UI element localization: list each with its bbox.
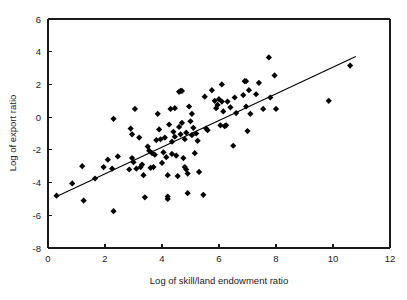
x-tick-label: 4 xyxy=(159,253,164,264)
data-point-marker xyxy=(200,192,206,198)
data-point-marker xyxy=(100,164,106,170)
y-tick-label: -6 xyxy=(33,210,41,221)
data-point-marker xyxy=(170,129,176,135)
trend-line xyxy=(57,57,356,197)
data-point-marker xyxy=(132,106,138,112)
y-tick-label: 4 xyxy=(36,46,41,57)
x-axis-title: Log of skill/land endowment ratio xyxy=(150,275,288,286)
data-point-marker xyxy=(172,134,178,140)
data-point-marker xyxy=(136,134,142,140)
data-point-marker xyxy=(253,91,259,97)
data-point-marker xyxy=(175,173,181,179)
data-point-marker xyxy=(166,121,172,127)
data-point-marker xyxy=(156,126,162,132)
x-tick-label: 6 xyxy=(216,253,221,264)
data-point-marker xyxy=(260,106,266,112)
y-tick-label: -8 xyxy=(33,243,41,254)
data-point-marker xyxy=(155,111,161,117)
data-point-marker xyxy=(224,99,230,105)
data-point-marker xyxy=(266,54,272,60)
data-point-marker xyxy=(159,160,165,166)
data-point-marker xyxy=(192,150,198,156)
data-point-marker xyxy=(347,63,353,69)
x-tick-label: 10 xyxy=(328,253,339,264)
data-point-marker xyxy=(256,80,262,86)
data-point-marker xyxy=(140,172,146,178)
plot-frame xyxy=(48,19,390,248)
y-tick-label: 2 xyxy=(36,79,41,90)
x-tick-label: 0 xyxy=(45,253,50,264)
data-point-marker xyxy=(81,197,87,203)
data-point-marker xyxy=(185,190,191,196)
data-point-marker xyxy=(273,106,279,112)
x-tick-label: 2 xyxy=(102,253,107,264)
data-point-marker xyxy=(126,166,132,172)
data-point-marker xyxy=(177,131,183,137)
x-tick-label: 8 xyxy=(273,253,278,264)
data-point-marker xyxy=(110,208,116,214)
data-point-marker xyxy=(246,87,252,93)
data-point-marker xyxy=(142,194,148,200)
data-point-marker xyxy=(232,94,238,100)
data-point-marker xyxy=(247,111,253,117)
data-point-marker xyxy=(240,92,246,98)
data-point-marker xyxy=(172,105,178,111)
data-point-marker xyxy=(128,125,134,131)
data-point-marker xyxy=(195,138,201,144)
chart-figure: 024681012 -8-6-4-20246 Log of skill/land… xyxy=(0,0,407,300)
data-point-marker xyxy=(165,172,171,178)
y-tick-label: 0 xyxy=(36,112,41,123)
data-point-marker xyxy=(79,163,85,169)
y-axis-ticks: -8-6-4-20246 xyxy=(33,14,52,254)
data-point-marker xyxy=(196,169,202,175)
data-point-marker xyxy=(189,111,195,117)
y-tick-label: -2 xyxy=(33,144,41,155)
data-point-marker xyxy=(105,157,111,163)
data-point-marker xyxy=(190,125,196,131)
y-axis-title: Log of export ratio xyxy=(7,95,18,172)
data-point-marker xyxy=(271,72,277,78)
data-point-marker xyxy=(244,128,250,134)
data-point-marker xyxy=(129,131,135,137)
data-point-marker xyxy=(326,98,332,104)
data-point-marker xyxy=(230,143,236,149)
data-point-marker xyxy=(219,81,225,87)
trend-line-group xyxy=(57,57,356,197)
x-tick-label: 12 xyxy=(385,253,396,264)
scatter-plot: 024681012 -8-6-4-20246 Log of skill/land… xyxy=(0,0,407,300)
y-tick-label: 6 xyxy=(36,14,41,25)
data-point-marker xyxy=(187,118,193,124)
data-point-marker xyxy=(220,108,226,114)
data-point-marker xyxy=(180,155,186,161)
data-point-marker xyxy=(110,116,116,122)
data-point-marker xyxy=(186,103,192,109)
data-point-marker xyxy=(202,94,208,100)
data-point-marker xyxy=(163,154,169,160)
data-point-marker xyxy=(160,149,166,155)
data-point-marker xyxy=(69,180,75,186)
data-point-marker xyxy=(209,87,215,93)
data-point-marker xyxy=(115,153,121,159)
data-point-marker xyxy=(227,104,233,110)
x-axis-ticks: 024681012 xyxy=(45,244,395,264)
y-tick-label: -4 xyxy=(33,177,41,188)
